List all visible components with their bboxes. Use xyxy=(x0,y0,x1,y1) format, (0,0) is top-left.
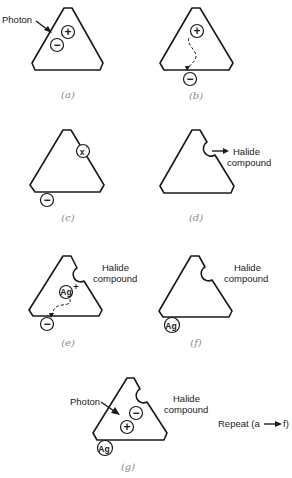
caption-c: (c) xyxy=(61,212,75,223)
caption-f: (f) xyxy=(190,337,202,348)
release-arrow-head xyxy=(223,148,229,154)
silver-halide-photolysis-diagram: Photon + − (a) + − (b) x ° xyxy=(0,0,292,478)
panel-d: Halide compound (d) xyxy=(160,130,271,223)
electron-particle: − xyxy=(130,406,143,420)
photon-arrow-head xyxy=(111,407,120,415)
halide-compound-label-line2: compound xyxy=(224,273,268,284)
halide-compound-label: Halide xyxy=(102,262,129,273)
electron-particle: − xyxy=(51,38,64,52)
photon-label: Photon xyxy=(70,396,100,407)
panel-g: Photon − + Ag ° Halide compound Repeat (… xyxy=(70,378,289,472)
halide-compound-label-line2: compound xyxy=(164,404,208,415)
crystal-shape-with-vacancy xyxy=(159,256,232,317)
panel-c: x ° − (c) xyxy=(30,130,104,223)
panel-e: Halide compound Ag + − (e) xyxy=(29,256,137,348)
crystal-shape xyxy=(160,8,233,70)
svg-text:+: + xyxy=(123,420,130,434)
hole-particle: + xyxy=(121,420,134,434)
repeat-note: Repeat (a f) xyxy=(218,418,289,429)
halide-compound-label-line2: compound xyxy=(93,273,137,284)
halide-atom-particle: x ° xyxy=(77,145,90,158)
ion-migration-path xyxy=(52,299,70,314)
hole-particle: + xyxy=(191,24,204,38)
svg-text:Ag: Ag xyxy=(60,287,71,297)
silver-ion-particle: Ag + xyxy=(60,282,79,299)
halide-compound-label-line2: compound xyxy=(227,157,271,168)
caption-e: (e) xyxy=(61,337,75,348)
panel-a: Photon + − (a) xyxy=(2,8,103,100)
panel-f: Halide compound Ag ° (f) xyxy=(159,256,268,348)
electron-migration-path xyxy=(188,38,196,68)
svg-text:+: + xyxy=(73,282,78,292)
photon-label: Photon xyxy=(2,14,32,25)
svg-text:−: − xyxy=(43,193,50,207)
caption-a: (a) xyxy=(61,89,75,100)
electron-particle: − xyxy=(184,72,197,86)
repeat-arrow-head xyxy=(275,421,282,427)
svg-text:−: − xyxy=(53,38,60,52)
svg-text:f): f) xyxy=(283,418,289,429)
svg-text:x: x xyxy=(80,147,85,157)
hole-particle: + xyxy=(62,25,75,39)
panel-b: + − (b) xyxy=(160,8,233,101)
caption-d: (d) xyxy=(189,212,203,223)
crystal-shape xyxy=(30,130,104,192)
electron-particle: − xyxy=(41,317,54,331)
halide-compound-label: Halide xyxy=(234,262,261,273)
silver-atom-particle: Ag ° xyxy=(98,441,113,456)
crystal-shape-with-vacancy xyxy=(160,130,234,193)
svg-text:−: − xyxy=(43,317,50,331)
caption-g: (g) xyxy=(121,461,135,472)
electron-particle: − xyxy=(41,193,54,207)
svg-text:−: − xyxy=(132,406,139,420)
svg-text:+: + xyxy=(64,25,71,39)
halide-compound-label: Halide xyxy=(173,393,200,404)
svg-text:+: + xyxy=(193,24,200,38)
svg-text:Repeat (a: Repeat (a xyxy=(218,418,260,429)
silver-atom-particle: Ag ° xyxy=(165,318,180,333)
caption-b: (b) xyxy=(189,90,203,101)
svg-text:−: − xyxy=(186,72,193,86)
halide-compound-label: Halide xyxy=(233,146,260,157)
